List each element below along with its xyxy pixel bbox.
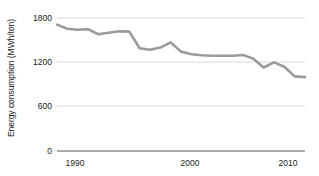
plot-area (0, 0, 319, 176)
data-line-energy-consumption (57, 25, 305, 77)
line-chart: Energy consumption (MWh/ton) 1800 1200 6… (0, 0, 319, 176)
